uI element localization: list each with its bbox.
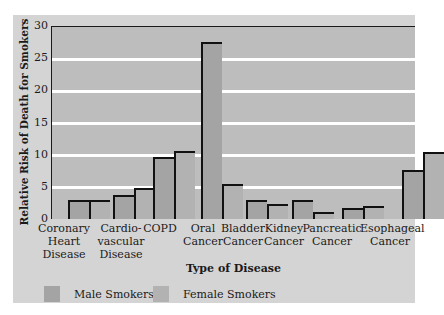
bar-male-1 xyxy=(113,195,134,219)
bar-male-5 xyxy=(292,200,313,219)
bar-female-3 xyxy=(222,184,243,219)
gridline xyxy=(52,58,415,61)
bar-female-4 xyxy=(267,204,288,219)
bar-male-7 xyxy=(402,170,423,219)
gridline xyxy=(52,122,415,125)
x-axis-title: Type of Disease xyxy=(186,262,281,275)
bar-male-4 xyxy=(246,200,267,219)
bar-female-5 xyxy=(313,212,334,219)
bar-female-0 xyxy=(89,200,110,219)
plot-area xyxy=(51,26,415,219)
legend-swatch-female xyxy=(153,286,169,302)
legend-label-female: Female Smokers xyxy=(183,288,276,301)
bar-male-0 xyxy=(68,200,89,219)
legend-swatch-male xyxy=(44,286,60,302)
gridline xyxy=(52,154,415,157)
legend-male: Male Smokers xyxy=(44,286,154,302)
bar-female-7 xyxy=(423,152,444,219)
x-category-label: CoronaryHeartDisease xyxy=(34,222,94,261)
y-axis-label: Relative Risk of Death for Smokers xyxy=(18,19,30,226)
bar-male-6 xyxy=(342,208,363,219)
bar-female-2 xyxy=(174,151,195,219)
gridline xyxy=(52,90,415,93)
bar-female-6 xyxy=(363,206,384,219)
x-category-label: EsophagealCancer xyxy=(360,222,420,248)
x-category-label: PancreaticCancer xyxy=(302,222,362,248)
legend-female: Female Smokers xyxy=(153,286,276,302)
bar-male-2 xyxy=(153,157,174,219)
legend-label-male: Male Smokers xyxy=(74,288,154,301)
bar-male-3 xyxy=(201,42,222,219)
bar-female-1 xyxy=(134,188,155,219)
